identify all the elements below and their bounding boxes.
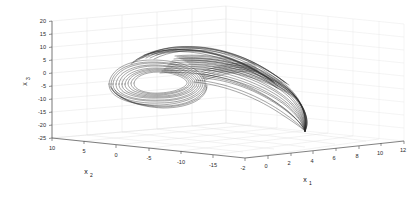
tickmarks-x2 xyxy=(52,138,213,158)
tick-x1-7: 12 xyxy=(400,147,406,153)
tick-x3-1: 15 xyxy=(40,31,46,37)
grid-wall-left xyxy=(52,6,226,138)
ticklabels-x1: -2 0 2 4 6 8 10 12 xyxy=(241,147,407,171)
tick-x2-4: -10 xyxy=(177,159,185,165)
tick-x2-0: 10 xyxy=(49,145,55,151)
tick-x2-1: 5 xyxy=(82,148,85,154)
axis-title-x1-subscript: 1 xyxy=(309,180,312,186)
tick-x3-2: 10 xyxy=(40,44,46,50)
plot-3d-axes: 20 15 10 5 0 -5 -10 -15 -20 -25 10 5 0 -… xyxy=(0,0,416,200)
tick-x3-8: -20 xyxy=(38,122,46,128)
tick-x1-4: 6 xyxy=(332,155,335,161)
axis-title-x2: x 2 xyxy=(84,168,93,178)
tick-x3-7: -15 xyxy=(38,109,46,115)
tickmarks-x3 xyxy=(49,21,52,139)
axis-title-x3: x 3 xyxy=(21,77,31,86)
tick-x3-0: 20 xyxy=(40,18,46,24)
axis-title-x2-subscript: 2 xyxy=(90,172,93,178)
tick-x3-3: 5 xyxy=(43,57,46,63)
tick-x3-9: -25 xyxy=(38,135,46,141)
grid-floor xyxy=(52,123,379,158)
tick-x1-1: 0 xyxy=(264,163,267,169)
attractor-trajectory xyxy=(109,46,307,131)
figure-canvas: 20 15 10 5 0 -5 -10 -15 -20 -25 10 5 0 -… xyxy=(0,0,416,200)
axis-title-x2-letter: x xyxy=(84,168,88,175)
tick-x3-5: -5 xyxy=(41,83,46,89)
tick-x1-0: -2 xyxy=(241,165,246,171)
tick-x1-5: 8 xyxy=(355,153,358,159)
tick-x2-2: 0 xyxy=(114,152,117,158)
ticklabels-x3: 20 15 10 5 0 -5 -10 -15 -20 -25 xyxy=(38,18,46,141)
axis-title-x3-letter: x xyxy=(21,82,28,86)
tick-x1-6: 10 xyxy=(377,150,383,156)
tick-x2-5: -15 xyxy=(209,162,217,168)
tick-x1-3: 4 xyxy=(310,158,313,164)
tick-x3-6: -10 xyxy=(38,96,46,102)
tick-x2-3: -5 xyxy=(147,155,152,161)
tick-x3-4: 0 xyxy=(43,70,46,76)
axis-title-x3-subscript: 3 xyxy=(25,77,31,80)
axis-title-x1-letter: x xyxy=(303,176,307,183)
ticklabels-x2: 10 5 0 -5 -10 -15 xyxy=(49,145,217,168)
axis-title-x1: x 1 xyxy=(303,176,312,186)
tick-x1-2: 2 xyxy=(287,160,290,166)
